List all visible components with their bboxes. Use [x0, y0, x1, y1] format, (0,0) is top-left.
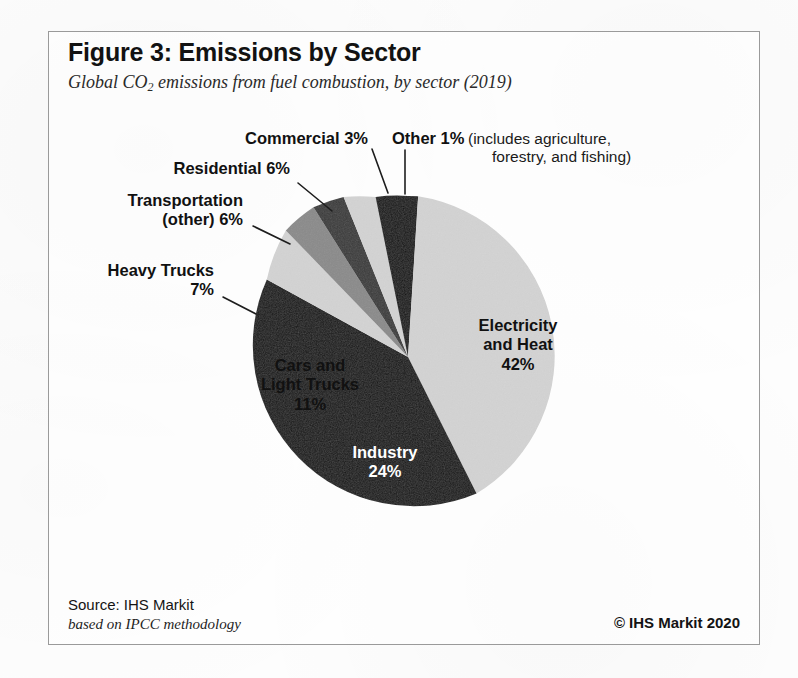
callout-transportation-other: Transportation (other) 6% [88, 191, 243, 229]
source-label: Source: IHS Markit [68, 596, 194, 613]
other-note-line-2: forestry, and fishing) [492, 148, 631, 165]
cars-label-line-2: Light Trucks [261, 375, 359, 393]
heavy-trucks-label-line-1: Heavy Trucks [108, 261, 214, 279]
pie-chart-svg [48, 31, 760, 645]
electricity-label-line-2: and Heat [483, 335, 553, 353]
callout-other: Other 1% [392, 129, 464, 148]
callout-heavy-trucks: Heavy Trucks 7% [74, 261, 214, 299]
wedge-label-industry: Industry 24% [320, 443, 450, 482]
callout-other-note: (includes agriculture, forestry, and fis… [468, 130, 631, 167]
copyright-label: © IHS Markit 2020 [614, 614, 740, 631]
cars-label-line-3: 11% [294, 395, 326, 413]
industry-label-line-1: Industry [352, 443, 417, 461]
wedge-label-electricity-and-heat: Electricity and Heat 42% [448, 316, 588, 374]
leader-line-heavy-trucks [223, 297, 256, 314]
heavy-trucks-label-line-2: 7% [190, 280, 214, 298]
electricity-label-line-1: Electricity [479, 316, 558, 334]
transportation-label-line-2: (other) 6% [162, 210, 243, 228]
industry-label-line-2: 24% [368, 462, 401, 480]
wedge-label-cars-and-light-trucks: Cars and Light Trucks 11% [230, 356, 390, 414]
source-methodology-note: based on IPCC methodology [68, 616, 241, 633]
callout-commercial: Commercial 3% [208, 129, 368, 148]
electricity-label-line-3: 42% [501, 355, 534, 373]
other-note-line-1: (includes agriculture, [468, 130, 611, 147]
cars-label-line-1: Cars and [275, 356, 346, 374]
callout-residential: Residential 6% [140, 159, 290, 178]
leader-line-commercial [372, 149, 388, 193]
pie-chart-area: Commercial 3% Other 1% (includes agricul… [48, 31, 760, 645]
transportation-label-line-1: Transportation [127, 191, 243, 209]
